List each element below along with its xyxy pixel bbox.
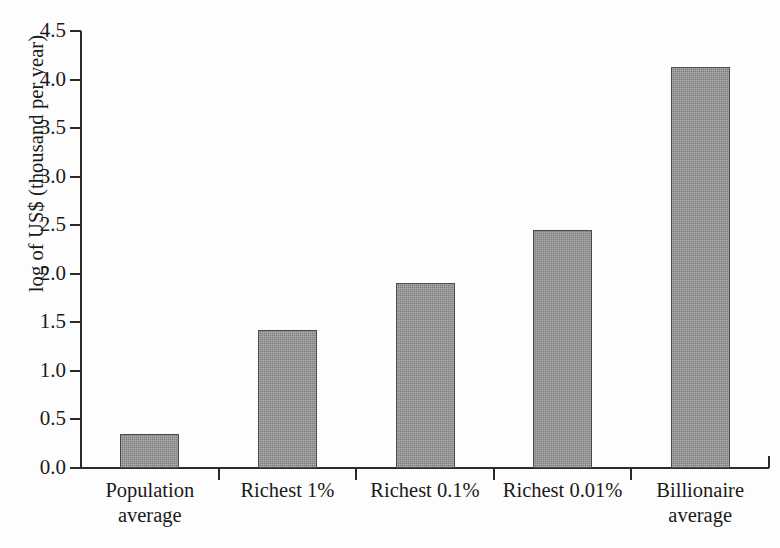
y-axis-tick-mark (70, 224, 81, 226)
y-axis-tick-label: 2.0 (2, 263, 66, 284)
x-axis-category-label-line2: average (631, 503, 769, 528)
x-axis-category-label: Richest 0.1% (356, 478, 494, 503)
y-axis-tick-mark (70, 176, 81, 178)
y-axis-tick-label: 3.5 (2, 117, 66, 138)
y-axis-tick-label: 0.5 (2, 408, 66, 429)
x-axis-category-label: Populationaverage (81, 478, 219, 528)
y-axis-tick-mark (70, 127, 81, 129)
y-axis-tick-label: 3.0 (2, 166, 66, 187)
bar (671, 67, 730, 468)
y-axis-tick-mark (70, 467, 81, 469)
bar (120, 434, 179, 468)
x-axis-category-label-line2: average (81, 503, 219, 528)
y-axis-tick-labels: 0.00.51.01.52.02.53.03.54.04.5 (0, 0, 66, 548)
y-axis-tick-mark (70, 30, 81, 32)
x-axis-category-label-line1: Population (105, 479, 194, 501)
bar (396, 283, 455, 468)
bar (258, 330, 317, 468)
x-axis-category-label: Richest 1% (219, 478, 357, 503)
x-axis-category-label-line1: Richest 1% (240, 479, 334, 501)
y-axis-tick-mark (70, 418, 81, 420)
x-axis-category-label-line1: Richest 0.01% (503, 479, 623, 501)
y-axis-tick-label: 4.5 (2, 20, 66, 41)
x-axis-category-label-line1: Billionaire (656, 479, 744, 501)
y-axis-tick-mark (70, 370, 81, 372)
y-axis-tick-label: 1.5 (2, 311, 66, 332)
x-axis-category-label: Billionaireaverage (631, 478, 769, 528)
y-axis-tick-mark (70, 321, 81, 323)
y-axis-tick-label: 4.0 (2, 69, 66, 90)
x-axis-category-label: Richest 0.01% (494, 478, 632, 503)
bar-chart-figure: log of US$ (thousand per year) 0.00.51.0… (0, 0, 780, 548)
y-axis-tick-label: 0.0 (2, 457, 66, 478)
x-axis-tick-mark (768, 456, 770, 468)
y-axis-tick-label: 2.5 (2, 214, 66, 235)
y-axis-tick-mark (70, 273, 81, 275)
y-axis-line (80, 31, 82, 469)
y-axis-tick-mark (70, 79, 81, 81)
bar (533, 230, 592, 468)
y-axis-tick-label: 1.0 (2, 360, 66, 381)
x-axis-category-label-line1: Richest 0.1% (370, 479, 479, 501)
